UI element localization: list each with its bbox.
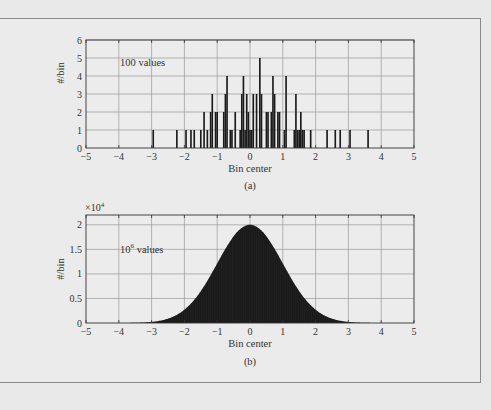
x-tick-label: 1 — [280, 326, 285, 337]
panel-label: (a) — [244, 180, 256, 192]
x-tick-label: 4 — [379, 326, 384, 337]
x-tick-label: −1 — [212, 151, 223, 162]
x-tick-label: 4 — [379, 151, 384, 162]
panel-label: (b) — [244, 356, 257, 368]
x-tick-label: 0 — [248, 326, 253, 337]
x-tick-label: −4 — [113, 151, 124, 162]
x-tick-label: −2 — [179, 326, 190, 337]
y-tick-label: 4 — [77, 71, 82, 82]
y-multiplier-label: ×104 — [85, 201, 105, 213]
y-tick-label: 1.5 — [70, 244, 83, 255]
x-tick-label: 5 — [412, 151, 417, 162]
y-tick-label: 0.5 — [70, 293, 83, 304]
x-tick-label: 5 — [412, 326, 417, 337]
y-tick-label: 1 — [77, 268, 82, 279]
y-axis-label: #/bin — [55, 61, 66, 83]
y-tick-label: 0 — [77, 318, 82, 329]
chart-a: −5−4−3−2−10123450123456#/binBin center(a… — [55, 35, 417, 193]
chart-b: −5−4−3−2−101234500.511.52#/binBin center… — [55, 201, 417, 368]
y-axis-label: #/bin — [55, 257, 66, 279]
annotation-text: 100 values — [120, 57, 165, 68]
annotation-text: 106 values — [120, 242, 163, 255]
y-tick-label: 6 — [77, 35, 82, 46]
x-tick-label: 1 — [280, 151, 285, 162]
x-tick-label: 2 — [313, 326, 318, 337]
figure-panel: −5−4−3−2−10123450123456#/binBin center(a… — [0, 18, 481, 383]
y-tick-label: 0 — [77, 143, 82, 154]
x-tick-label: 0 — [248, 151, 253, 162]
x-tick-label: 3 — [346, 151, 351, 162]
x-tick-label: −3 — [146, 326, 157, 337]
x-tick-label: 3 — [346, 326, 351, 337]
x-axis-label: Bin center — [228, 338, 272, 349]
x-axis-label: Bin center — [228, 163, 272, 174]
x-tick-label: −2 — [179, 151, 190, 162]
x-tick-label: 2 — [313, 151, 318, 162]
x-tick-label: −5 — [81, 326, 92, 337]
y-tick-label: 1 — [77, 125, 82, 136]
x-tick-label: −1 — [212, 326, 223, 337]
y-tick-label: 2 — [77, 107, 82, 118]
y-tick-label: 3 — [77, 89, 82, 100]
y-tick-label: 5 — [77, 53, 82, 64]
x-tick-label: −5 — [81, 151, 92, 162]
y-tick-label: 2 — [77, 219, 82, 230]
figure-svg: −5−4−3−2−10123450123456#/binBin center(a… — [0, 19, 480, 382]
x-tick-label: −4 — [113, 326, 124, 337]
x-tick-label: −3 — [146, 151, 157, 162]
